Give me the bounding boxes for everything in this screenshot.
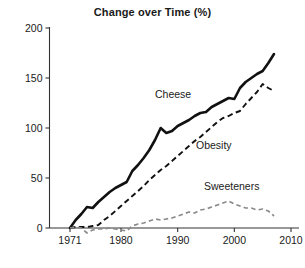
series-label-cheese: Cheese — [155, 88, 191, 100]
y-axis-tick-label: 100 — [25, 122, 43, 134]
series-line-obesity — [70, 84, 274, 228]
series-label-sweeteners: Sweeteners — [204, 180, 259, 192]
y-axis-tick-label: 0 — [37, 222, 43, 234]
y-axis-tick-label: 50 — [31, 172, 43, 184]
series-lines — [70, 54, 274, 233]
x-axis-tick-label: 1990 — [166, 234, 190, 246]
x-axis: 19711980199020002010 — [50, 228, 303, 246]
y-axis-tick-label: 150 — [25, 72, 43, 84]
series-annotations: CheeseObesitySweeteners — [155, 88, 259, 192]
series-label-obesity: Obesity — [196, 139, 232, 151]
y-axis-tick-label: 200 — [25, 22, 43, 34]
x-axis-tick-label: 2000 — [223, 234, 247, 246]
x-axis-tick-label: 1971 — [58, 234, 82, 246]
chart-plot-area: 050100150200 19711980199020002010 Cheese… — [0, 0, 305, 268]
series-line-cheese — [70, 54, 274, 228]
x-axis-tick-label: 2010 — [279, 234, 303, 246]
y-axis: 050100150200 — [25, 22, 50, 234]
chart-container: Change over Time (%) 050100150200 197119… — [0, 0, 305, 268]
x-axis-tick-label: 1980 — [109, 234, 133, 246]
